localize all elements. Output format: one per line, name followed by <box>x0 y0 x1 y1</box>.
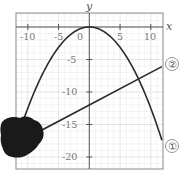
x-tick-label: -5 <box>54 31 63 42</box>
x-tick-label: 5 <box>117 31 123 42</box>
y-tick-label: -15 <box>62 119 77 130</box>
y-axis-label: y <box>85 0 93 13</box>
ink-blot <box>0 117 43 158</box>
x-tick-label: -10 <box>20 31 35 42</box>
x-tick-label: 0 <box>77 31 83 42</box>
y-tick-label: -5 <box>67 54 76 65</box>
svg-text:②: ② <box>168 59 177 70</box>
y-tick-label: -20 <box>62 151 77 162</box>
x-axis-label: x <box>166 20 173 33</box>
svg-text:①: ① <box>168 141 177 152</box>
curve-2-label: ② <box>166 58 179 71</box>
curve-1-label: ① <box>166 140 179 153</box>
function-graph: x y -10 -5 0 5 10 -5 -10 -15 -20 ② ① <box>0 0 183 174</box>
y-tick-label: -10 <box>62 86 77 97</box>
x-tick-label: 10 <box>144 31 156 42</box>
